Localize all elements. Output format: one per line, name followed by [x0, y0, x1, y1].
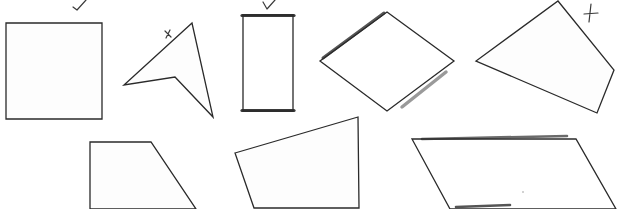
checkmark-icon: [73, 0, 86, 10]
x-mark-icon: [165, 30, 171, 38]
square-shape: [6, 23, 102, 119]
rhombus-upper-left-highlight: [323, 13, 384, 58]
pencil-dot: [522, 191, 524, 193]
irregular-quad-shape: [235, 117, 359, 208]
concave-dart-shape: [124, 23, 213, 117]
kite-shape: [476, 1, 614, 113]
trapezoid-shape: [90, 142, 196, 209]
checkmark-icon: [263, 0, 275, 9]
quadrilateral-sheet: [0, 0, 618, 209]
parallelogram-shape: [412, 139, 616, 209]
parallelogram-bottom-highlight: [456, 205, 510, 207]
rectangle-shape: [243, 15, 293, 111]
rhombus-lower-right-highlight: [402, 72, 446, 107]
x-mark-icon: [584, 4, 598, 22]
rhombus-shape: [320, 12, 454, 111]
